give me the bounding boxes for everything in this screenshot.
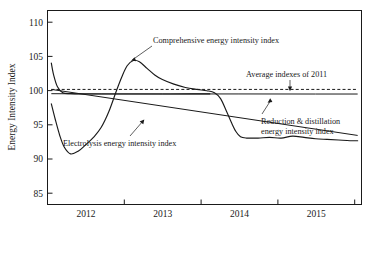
annotation-electrolysis: Electrolysis energy intensity index (63, 139, 176, 148)
x-tick-label-2012: 2012 (76, 209, 95, 219)
x-tick-label-2015: 2015 (307, 209, 326, 219)
y-tick-label-100: 100 (29, 86, 44, 96)
chart-figure: 110 105 100 95 90 85 Energy Intensity In… (0, 0, 375, 264)
annotation-average-2011: Average indexes of 2011 (246, 70, 327, 79)
y-tick-label-85: 85 (34, 189, 44, 199)
line-chart-svg: 110 105 100 95 90 85 Energy Intensity In… (0, 0, 375, 264)
x-axis-ticks (48, 200, 355, 205)
leader-reduction-arrow (268, 98, 273, 103)
leader-electrolysis-arrow (140, 120, 145, 125)
annotation-comprehensive: Comprehensive energy intensity index (153, 36, 279, 45)
leader-electrolysis (130, 121, 143, 136)
y-tick-label-105: 105 (29, 52, 44, 62)
y-tick-label-110: 110 (29, 18, 43, 28)
y-axis-title: Energy Intensity Index (7, 63, 17, 150)
y-tick-label-95: 95 (34, 120, 44, 130)
x-tick-label-2014: 2014 (230, 209, 249, 219)
annotation-reduction-line2: energy intensity index (261, 127, 334, 136)
y-tick-label-90: 90 (34, 154, 44, 164)
x-tick-label-2013: 2013 (153, 209, 172, 219)
annotation-reduction-line1: Reduction & distillation (261, 117, 340, 126)
